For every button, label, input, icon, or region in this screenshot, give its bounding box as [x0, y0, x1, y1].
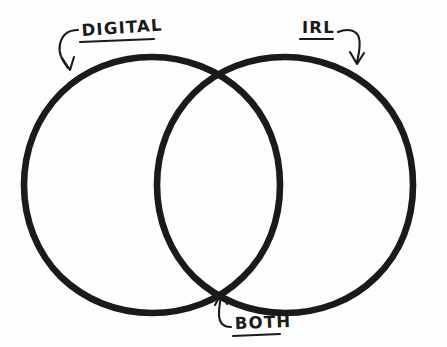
arrow-digital — [59, 30, 78, 68]
venn-diagram-svg: DIGITAL IRL BOTH — [0, 0, 447, 347]
label-digital-underline — [80, 39, 154, 42]
label-digital: DIGITAL — [81, 15, 163, 40]
circle-irl[interactable] — [157, 57, 413, 313]
arrow-irl — [338, 30, 360, 62]
label-irl: IRL — [302, 18, 335, 37]
label-both: BOTH — [234, 312, 291, 333]
venn-diagram-canvas: DIGITAL IRL BOTH — [0, 0, 447, 347]
circle-digital[interactable] — [24, 57, 280, 313]
label-both-underline — [233, 334, 280, 336]
